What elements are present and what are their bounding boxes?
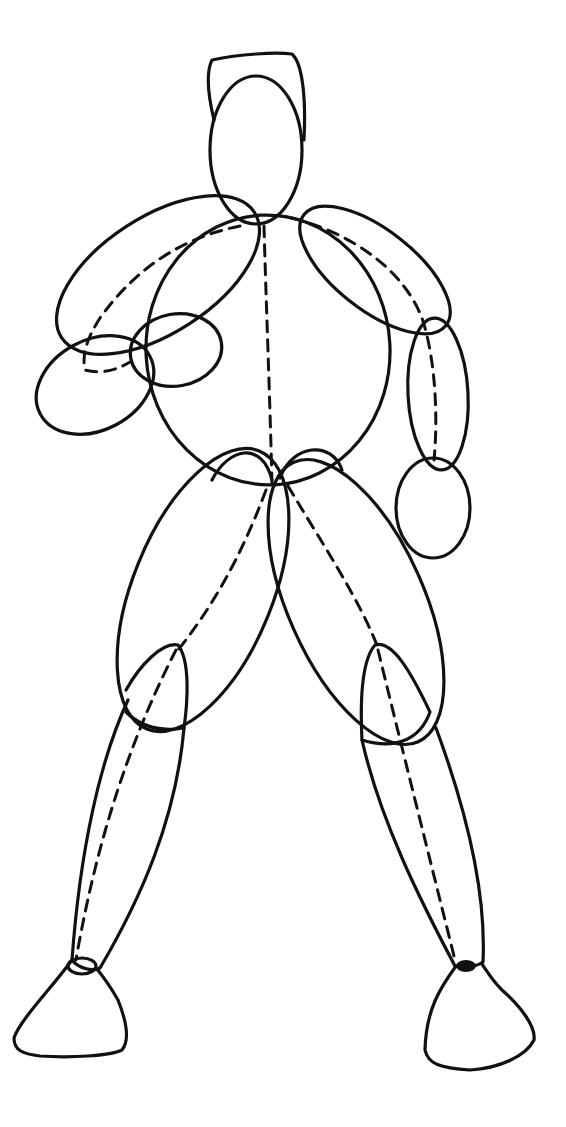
- left-hand-oval: [19, 316, 171, 454]
- right-knee-shape: [361, 644, 430, 743]
- left-foot-shape: [14, 960, 126, 1057]
- left-upper-arm-oval: [30, 164, 286, 387]
- left-shin-shape: [72, 700, 184, 970]
- torso-axis-line: [264, 226, 272, 485]
- left-arm-axis-line: [84, 226, 240, 372]
- right-forearm-oval: [404, 317, 472, 472]
- right-upper-arm-oval: [279, 183, 470, 357]
- figure-drawing: [0, 0, 566, 1127]
- head-oval: [210, 76, 302, 224]
- right-foot-shape: [425, 964, 534, 1070]
- drawing-canvas: Line drawing of a standing human figure …: [0, 0, 566, 1127]
- left-shin-axis-line: [76, 650, 176, 960]
- right-thigh-axis-line: [288, 486, 378, 648]
- left-forearm-oval: [124, 307, 227, 394]
- right-shin-shape: [362, 728, 483, 967]
- left-thigh-oval: [82, 425, 324, 756]
- right-hand-oval: [396, 458, 470, 558]
- right-ankle-joint: [456, 960, 476, 972]
- left-thigh-axis-line: [178, 490, 266, 650]
